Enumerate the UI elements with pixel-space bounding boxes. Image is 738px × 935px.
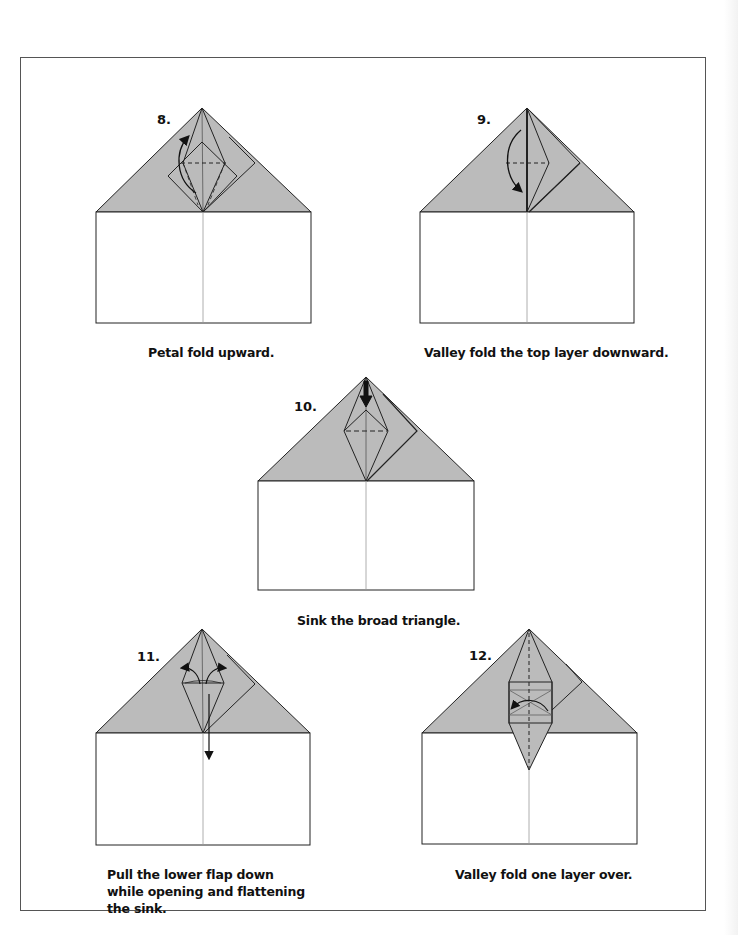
step-11-number: 11. — [137, 649, 160, 664]
step-10-caption: Sink the broad triangle. — [297, 612, 460, 629]
step-9-caption: Valley fold the top layer downward. — [424, 344, 668, 361]
step-11-diagram: 11. — [96, 629, 310, 845]
step-8-caption: Petal fold upward. — [148, 344, 274, 361]
step-11-caption: Pull the lower flap down while opening a… — [107, 866, 307, 917]
step-8-diagram: 8. — [96, 108, 311, 323]
step-9-number: 9. — [477, 112, 491, 127]
step-12-diagram: 12. — [422, 629, 637, 844]
step-8-number: 8. — [157, 112, 171, 127]
step-12-number: 12. — [469, 648, 492, 663]
origami-diagrams: 8. 9. 10. — [0, 0, 738, 935]
step-12-caption: Valley fold one layer over. — [455, 866, 632, 883]
step-10-diagram: 10. — [258, 377, 474, 590]
step-9-diagram: 9. — [420, 108, 634, 323]
step-10-number: 10. — [294, 399, 317, 414]
